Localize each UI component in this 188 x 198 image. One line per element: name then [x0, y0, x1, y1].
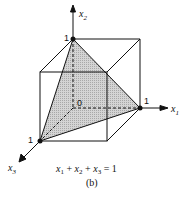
x3-label: x3 — [7, 162, 16, 176]
vertex-x1 — [138, 106, 143, 111]
origin-label: 0 — [77, 98, 82, 108]
x3-arrow-icon — [19, 154, 26, 162]
vertex-x3 — [38, 139, 43, 144]
x2-label: x2 — [78, 8, 87, 22]
x2-unit-label: 1 — [64, 33, 69, 43]
x3-unit-label: 1 — [28, 135, 33, 145]
x1-arrow-icon — [160, 106, 168, 111]
vertex-x2 — [71, 37, 76, 42]
x1-unit-label: 1 — [144, 96, 149, 106]
equation: x1 + x2 + x3 = 1 — [55, 163, 117, 176]
figure-caption: (b) — [86, 177, 98, 189]
x1-label: x1 — [170, 103, 179, 117]
simplex-diagram: x2 x1 x3 1 1 1 0 x1 + x2 + x3 = 1 (b) — [0, 0, 188, 198]
x2-arrow-icon — [71, 5, 76, 12]
